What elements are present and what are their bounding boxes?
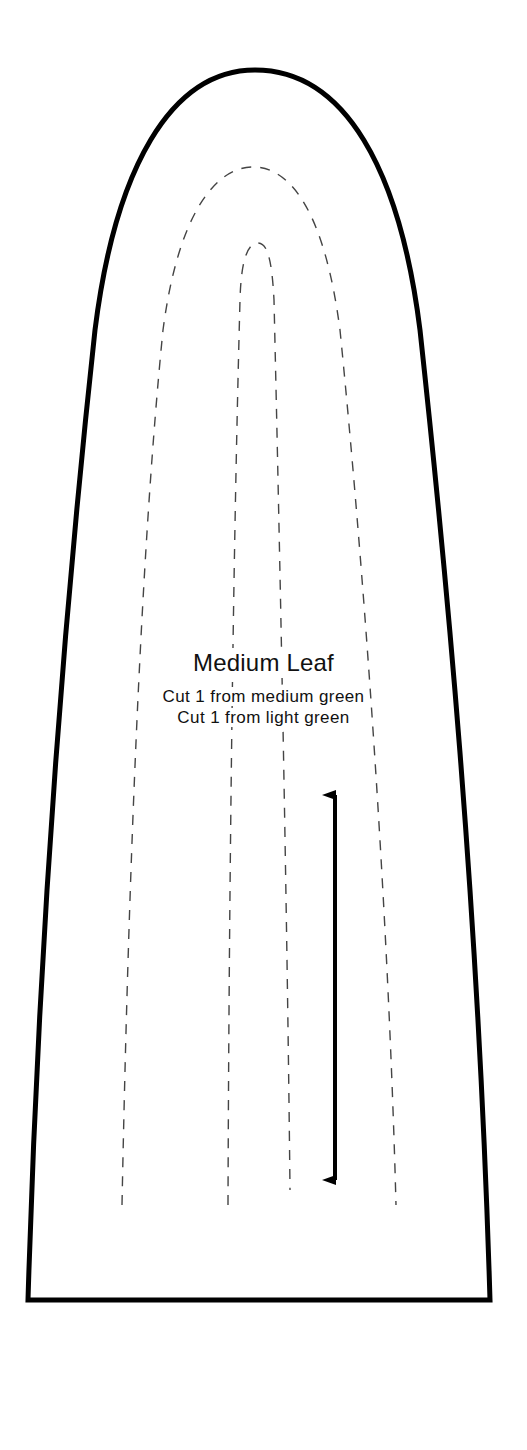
- inner-stitch-line: [228, 243, 290, 1205]
- outer-stitch-line: [122, 167, 396, 1205]
- pattern-piece-diagram: [0, 0, 527, 1450]
- leaf-outline: [28, 70, 490, 1300]
